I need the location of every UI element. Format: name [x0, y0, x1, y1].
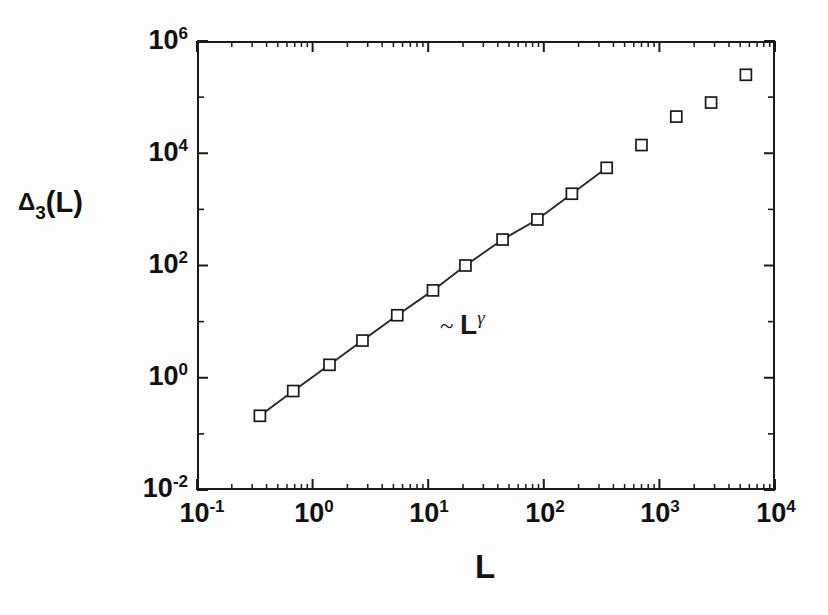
y-tick-label-1e6: 106 — [88, 27, 188, 54]
y-axis-title: Δ3(L) — [18, 186, 83, 219]
y-axis-title-subscript: 3 — [35, 202, 46, 223]
x-tick-label-1e-1: 10-1 — [157, 500, 247, 527]
x-tick-label-1e0: 100 — [274, 500, 354, 527]
annotation-exponent: γ — [477, 307, 485, 328]
plot-frame — [197, 41, 775, 490]
x-tick-label-1e1: 101 — [389, 500, 469, 527]
x-tick-label-1e4: 104 — [736, 500, 816, 527]
y-tick-label-1e2: 102 — [88, 251, 188, 278]
annotation-tilde: ~ — [440, 312, 454, 339]
y-tick-label-1e0: 100 — [88, 363, 188, 390]
x-axis-title: L — [455, 548, 515, 586]
y-axis-title-delta: Δ — [18, 188, 35, 215]
y-axis-title-argument: (L) — [46, 186, 83, 218]
y-tick-label-1e4: 104 — [88, 139, 188, 166]
annotation-base: L — [460, 309, 477, 340]
x-tick-label-1e3: 103 — [620, 500, 700, 527]
y-tick-label-1e-2: 10-2 — [80, 475, 188, 502]
x-tick-label-1e2: 102 — [505, 500, 585, 527]
power-law-annotation: ~ Lγ — [440, 309, 485, 341]
figure-canvas: 106 104 102 100 10-2 10-1 100 101 102 10… — [0, 0, 828, 615]
